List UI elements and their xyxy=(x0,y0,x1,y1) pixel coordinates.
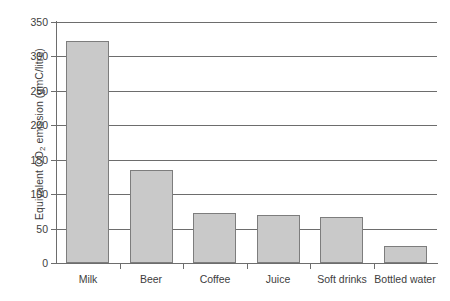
x-category-label: Beer xyxy=(140,273,162,285)
x-category-label: Milk xyxy=(79,273,98,285)
x-tick-mark xyxy=(183,264,184,269)
x-category-label: Bottled water xyxy=(374,273,435,285)
x-category-label: Juice xyxy=(266,273,291,285)
y-axis-title-subscript: 2 xyxy=(38,146,47,151)
x-tick-mark xyxy=(247,264,248,269)
y-tick-label: 300 xyxy=(0,50,48,62)
y-tick-label: 150 xyxy=(0,154,48,166)
bar xyxy=(193,213,236,263)
bar-chart: Equivalent CO2 emission (gmC/litre) 0501… xyxy=(0,0,450,301)
y-tick-label: 0 xyxy=(0,257,48,269)
bar xyxy=(130,170,173,263)
bar xyxy=(320,217,363,263)
x-category-label: Coffee xyxy=(200,273,231,285)
x-tick-mark xyxy=(310,264,311,269)
plot-area xyxy=(56,22,437,263)
x-tick-mark xyxy=(374,264,375,269)
y-tick-mark xyxy=(51,263,56,264)
y-axis-title: Equivalent CO2 emission (gmC/litre) xyxy=(33,9,45,259)
x-tick-mark xyxy=(120,264,121,269)
y-tick-label: 250 xyxy=(0,85,48,97)
bar xyxy=(257,215,300,263)
y-tick-label: 50 xyxy=(0,223,48,235)
bar xyxy=(384,246,427,263)
bar xyxy=(66,41,109,263)
y-tick-label: 350 xyxy=(0,16,48,28)
y-axis-title-suffix: emission (gmC/litre) xyxy=(33,48,45,146)
y-tick-label: 200 xyxy=(0,119,48,131)
x-category-label: Soft drinks xyxy=(317,273,367,285)
y-tick-label: 100 xyxy=(0,188,48,200)
